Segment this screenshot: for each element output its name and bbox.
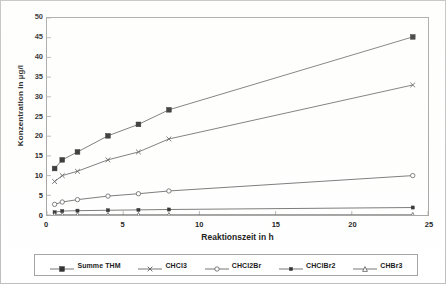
axis-ticks	[47, 18, 428, 215]
x-axis-tick-label: 20	[337, 220, 367, 229]
plot-area	[46, 17, 429, 216]
series-chclbr2	[53, 206, 414, 214]
y-axis-tick-label: 5	[17, 192, 43, 200]
series-chcl2br	[52, 173, 415, 206]
legend-item[interactable]: CHBr3	[352, 260, 402, 270]
legend-marker-filled-square-icon	[49, 264, 75, 274]
y-axis-tick-label: 25	[17, 113, 43, 121]
x-axis-tick-label: 10	[184, 220, 214, 229]
legend-item-label: Summe THM	[77, 262, 120, 269]
legend-symbol	[204, 260, 230, 270]
legend-marker-open-circle-icon	[204, 264, 230, 274]
legend-item-label: CHBr3	[380, 262, 402, 269]
chart-screenshot: Konzentration in µg/l 051015202530354045…	[0, 0, 446, 284]
chart-frame: Konzentration in µg/l 051015202530354045…	[0, 0, 446, 284]
legend-symbol	[278, 260, 304, 270]
y-axis-tick-label: 30	[17, 93, 43, 101]
legend-marker-x-cross-icon	[137, 264, 163, 274]
chart-legend: Summe THMCHCl3CHCl2BrCHClBr2CHBr3	[34, 254, 418, 276]
y-axis-tick-label: 45	[17, 33, 43, 41]
y-axis-tick-label: 0	[17, 212, 43, 220]
series-chbr3	[52, 212, 415, 215]
x-axis-tick-label: 25	[414, 220, 444, 229]
y-axis-tick-label: 50	[17, 13, 43, 21]
y-axis-tick-label: 10	[17, 172, 43, 180]
legend-item-label: CHClBr2	[306, 262, 335, 269]
y-axis-tick-label: 15	[17, 152, 43, 160]
legend-item-label: CHCl3	[165, 262, 187, 269]
y-axis-tick-label: 35	[17, 73, 43, 81]
legend-symbol	[49, 260, 75, 270]
legend-marker-open-triangle-icon	[352, 264, 378, 274]
y-axis-tick-labels: 05101520253035404550	[13, 1, 43, 284]
legend-item-label: CHCl2Br	[232, 262, 261, 269]
legend-marker-small-filled-square-icon	[278, 264, 304, 274]
y-axis-tick-label: 40	[17, 53, 43, 61]
legend-symbol	[137, 260, 163, 270]
x-axis-tick-label: 15	[261, 220, 291, 229]
legend-item[interactable]: Summe THM	[49, 260, 120, 270]
plot-svg	[47, 18, 428, 215]
legend-item[interactable]: CHClBr2	[278, 260, 335, 270]
y-axis-tick-label: 20	[17, 132, 43, 140]
x-axis-title: Reaktionszeit in h	[46, 232, 429, 242]
legend-item[interactable]: CHCl3	[137, 260, 187, 270]
x-axis-tick-label: 5	[108, 220, 138, 229]
x-axis-tick-label: 0	[31, 220, 61, 229]
series-summe-thm	[52, 35, 415, 171]
legend-symbol	[352, 260, 378, 270]
legend-item[interactable]: CHCl2Br	[204, 260, 261, 270]
